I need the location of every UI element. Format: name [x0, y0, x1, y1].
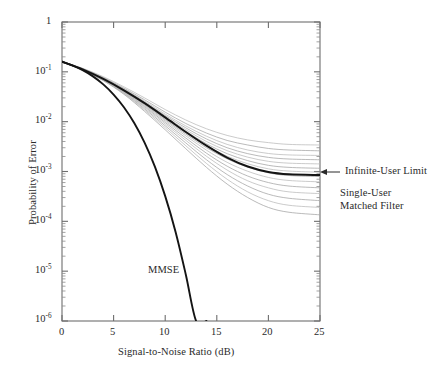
y-axis-minor-ticks — [62, 24, 320, 306]
annotation-single-user-matched-filter: Single-User Matched Filter — [340, 186, 404, 213]
x-tick-label-20: 20 — [262, 326, 273, 337]
x-tick-label-15: 15 — [211, 326, 222, 337]
y-tick-label-1e-5: 10-5 — [35, 264, 52, 275]
y-tick-label-1e-6: 10-6 — [35, 313, 52, 324]
annotation-infinite-user-limit: Infinite-User Limit — [345, 165, 427, 176]
x-axis-ticks — [62, 22, 320, 321]
bold-curves — [62, 62, 320, 325]
y-tick-label-1e-1: 10-1 — [35, 65, 52, 76]
matched-filter-curve-bundle — [62, 61, 320, 214]
y-tick-label-1e0: 1 — [46, 15, 51, 26]
y-tick-label-1e-2: 10-2 — [35, 114, 52, 125]
x-tick-label-0: 0 — [59, 326, 64, 337]
annotation-single-user-line1: Single-User — [340, 186, 404, 199]
axes-frame — [62, 22, 320, 321]
annotation-single-user-line2: Matched Filter — [340, 199, 404, 212]
y-axis-title: Probability of Error — [27, 140, 38, 225]
curve-infinite-user-limit — [62, 62, 320, 175]
figure-root: 1 10-1 10-2 10-3 10-4 10-5 10-6 0 5 10 1… — [0, 0, 428, 376]
x-tick-label-10: 10 — [159, 326, 170, 337]
x-tick-label-25: 25 — [314, 326, 325, 337]
curve-single-user-matched-filter-ensemble-14 — [62, 62, 320, 215]
curve-single-user-matched-filter-ensemble-10 — [62, 62, 320, 188]
x-tick-label-5: 5 — [110, 326, 115, 337]
infinite-user-limit-arrow — [320, 169, 340, 175]
x-axis-title: Signal-to-Noise Ratio (dB) — [118, 346, 234, 357]
annotation-mmse: MMSE — [148, 264, 179, 275]
y-axis-ticks — [62, 22, 320, 321]
curve-single-user-matched-filter-ensemble-9 — [62, 62, 320, 182]
